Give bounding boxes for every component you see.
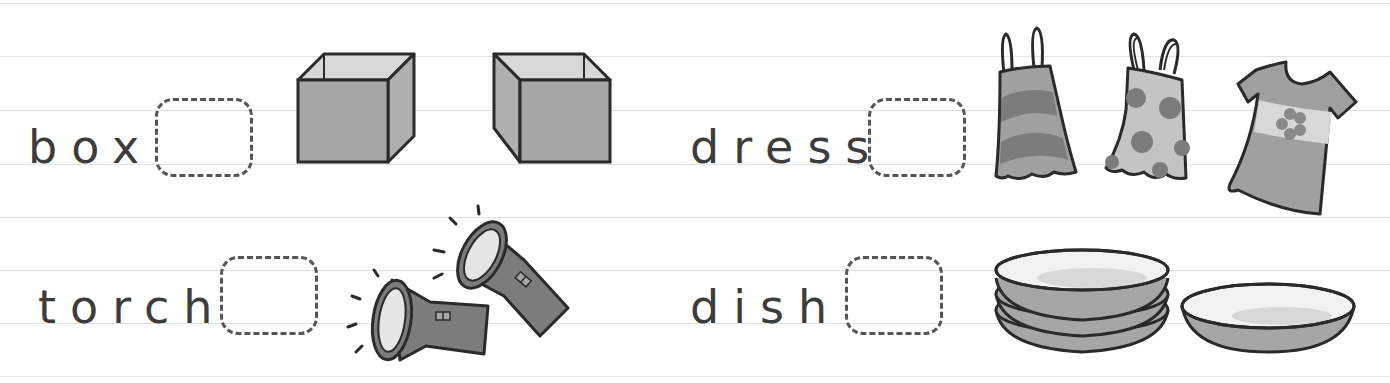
ruled-line (0, 217, 1390, 218)
torch-icon (428, 200, 578, 340)
box-icon (492, 52, 612, 164)
ruled-line (0, 270, 1390, 271)
ruled-line (0, 3, 1390, 4)
answer-box-dress[interactable] (868, 98, 966, 177)
word-dress: dress (690, 124, 883, 170)
stacked-dishes-icon (992, 248, 1172, 356)
answer-box-torch[interactable] (220, 256, 318, 335)
flower-dress-icon (1222, 62, 1362, 218)
striped-dress-icon (994, 26, 1090, 188)
answer-box-box[interactable] (155, 98, 253, 177)
answer-box-dish[interactable] (845, 256, 943, 335)
dish-icon (1178, 280, 1358, 356)
box-icon (296, 52, 418, 164)
ruled-line (0, 376, 1390, 377)
word-dish: dish (690, 284, 841, 330)
word-box: box (28, 124, 153, 170)
word-torch: torch (38, 284, 227, 330)
spotted-dress-icon (1104, 30, 1204, 180)
